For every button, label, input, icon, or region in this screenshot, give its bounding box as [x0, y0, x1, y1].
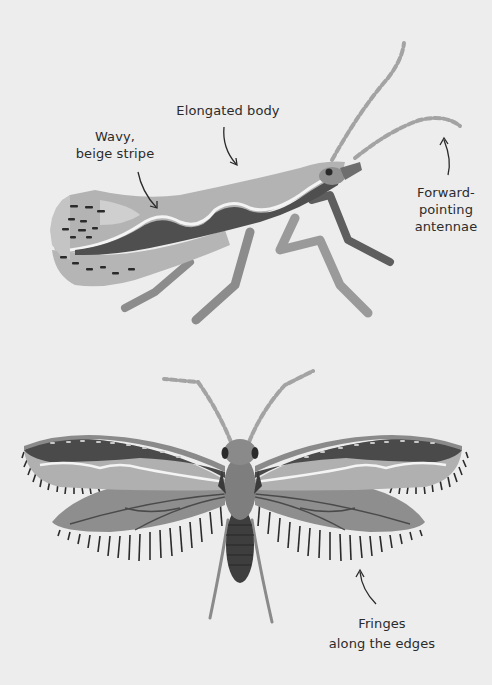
- label-forward-antennae: Forward- pointing antennae: [400, 184, 492, 235]
- label-wavy-stripe-line2: beige stripe: [60, 145, 170, 162]
- top-view-moth: [22, 371, 468, 622]
- label-antennae-line3: antennae: [400, 218, 492, 235]
- label-antennae-line2: pointing: [400, 201, 492, 218]
- arrow-elongated-body: [224, 127, 236, 164]
- label-fringes-line2: along the edges: [312, 634, 452, 654]
- arrow-fringes: [360, 572, 376, 604]
- label-fringes: Fringes along the edges: [312, 614, 452, 654]
- side-view-moth: [50, 43, 460, 320]
- label-antennae-line1: Forward-: [400, 184, 492, 201]
- label-fringes-line1: Fringes: [312, 614, 452, 634]
- arrow-antennae: [444, 140, 449, 175]
- label-elongated-body: Elongated body: [163, 102, 293, 119]
- label-wavy-stripe-line1: Wavy,: [60, 128, 170, 145]
- label-wavy-stripe: Wavy, beige stripe: [60, 128, 170, 162]
